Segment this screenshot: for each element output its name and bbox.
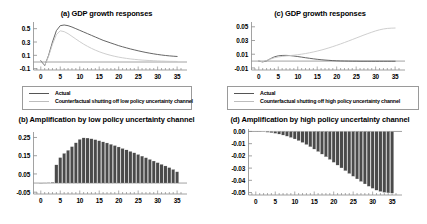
panel-b-xtick-label: 25: [130, 197, 146, 204]
panel-b-ytick-label: -0.05: [0, 189, 30, 196]
panel-c-xtick-label: 0: [251, 73, 267, 80]
legend-entry-actual: Actual: [228, 89, 418, 97]
panel-b-title: (b) Amplification by low policy uncertai…: [0, 115, 213, 124]
panel-b-plot: [33, 132, 181, 194]
panel-b-xtick-label: 15: [91, 197, 107, 204]
bar: [94, 140, 97, 183]
bar: [172, 169, 175, 183]
bar: [352, 131, 355, 176]
legend-entry-counterfactual: Counterfactual shutting off high policy …: [228, 97, 418, 105]
panel-d-title: (d) Amplification by high policy uncerta…: [213, 115, 427, 124]
bar: [148, 159, 151, 183]
bar: [105, 143, 108, 183]
panel-c-xtick-label: 25: [348, 73, 364, 80]
panel-a-xtick-label: 15: [91, 73, 107, 80]
panel-d-ytick-label: -0.04: [215, 177, 245, 184]
panel-d-xtick-label: 0: [248, 198, 264, 205]
panel-c-canvas: [251, 22, 407, 72]
bar: [70, 147, 73, 183]
panel-b-amplification-low: (b) Amplification by low policy uncertai…: [0, 112, 213, 224]
panel-d-ytick-label: -0.02: [215, 152, 245, 159]
panel-c-xtick-label: 10: [290, 73, 306, 80]
legend-line-actual: [29, 93, 49, 94]
panel-c-plot: [251, 22, 399, 70]
panel-b-ytick-label: 0.05: [0, 171, 30, 178]
bar: [355, 131, 358, 179]
bar: [109, 144, 112, 183]
panel-c-title: (c) GDP growth responses: [213, 9, 427, 18]
bar: [55, 165, 58, 183]
bar: [168, 168, 171, 184]
panel-d-ytick-label: -0.01: [215, 140, 245, 147]
bar: [152, 161, 155, 183]
bar: [367, 131, 370, 186]
panel-d-xtick-label: 5: [267, 198, 283, 205]
bar: [340, 131, 343, 168]
bar: [371, 131, 374, 188]
bar: [121, 148, 124, 183]
panel-d-xtick-label: 35: [384, 198, 400, 205]
legend-label-actual: Actual: [55, 90, 70, 96]
panel-a-title: (a) GDP growth responses: [0, 9, 213, 18]
bar: [332, 131, 335, 162]
bar: [140, 156, 143, 183]
bar: [390, 131, 393, 193]
panel-a-ytick-label: 0.3: [0, 39, 30, 46]
panel-a-legend: Actual Counterfactual shutting off low p…: [22, 86, 192, 110]
panel-d-xtick-label: 10: [287, 198, 303, 205]
panel-d-ytick-label: -0.05: [215, 189, 245, 196]
bar: [160, 164, 163, 183]
panel-a-gdp-growth-responses-low: (a) GDP growth responses Actual Counterf…: [0, 0, 213, 112]
panel-a-xtick-label: 10: [72, 73, 88, 80]
bar: [313, 131, 316, 149]
panel-a-ytick-label: 0.5: [0, 25, 30, 32]
panel-c-ytick-label: 0.01: [218, 51, 248, 58]
bar: [156, 163, 159, 183]
bar: [309, 131, 312, 146]
bar: [383, 131, 386, 192]
bar: [133, 153, 136, 183]
bar: [328, 131, 331, 159]
bar: [305, 131, 308, 144]
bar: [129, 151, 132, 183]
panel-b-canvas: [33, 132, 189, 196]
panel-a-series-1: [41, 31, 177, 66]
bar: [375, 131, 378, 190]
panel-a-plot: [33, 22, 181, 70]
legend-line-counterfactual: [29, 101, 49, 102]
panel-b-xtick-label: 30: [150, 197, 166, 204]
panel-a-ytick-label: -0.1: [0, 65, 30, 72]
panel-a-xtick-label: 20: [111, 73, 127, 80]
panel-c-ytick-label: -0.01: [218, 65, 248, 72]
bar: [117, 147, 120, 183]
bar: [78, 139, 81, 183]
legend-label-actual: Actual: [260, 90, 275, 96]
panel-c-xtick-label: 30: [368, 73, 384, 80]
bar: [98, 141, 101, 183]
bar: [316, 131, 319, 151]
panel-d-xtick-label: 30: [365, 198, 381, 205]
panel-c-xtick-label: 20: [329, 73, 345, 80]
panel-d-amplification-high: (d) Amplification by high policy uncerta…: [213, 112, 427, 224]
bar: [379, 131, 382, 191]
legend-line-counterfactual: [234, 101, 254, 102]
bar: [164, 166, 167, 183]
bar: [86, 138, 89, 183]
bar: [297, 131, 300, 140]
panel-a-xtick-label: 25: [130, 73, 146, 80]
panel-c-series-1: [259, 28, 395, 62]
panel-d-xtick-label: 25: [345, 198, 361, 205]
bar: [278, 131, 281, 134]
bar: [281, 131, 284, 135]
bar: [82, 138, 85, 183]
bar: [125, 150, 128, 183]
panel-c-ytick-label: 0.03: [218, 37, 248, 44]
panel-b-xtick-label: 35: [169, 197, 185, 204]
panel-d-ytick-label: 0.00: [215, 128, 245, 135]
panel-c-xtick-label: 35: [387, 73, 403, 80]
panel-b-xtick-label: 5: [52, 197, 68, 204]
legend-line-actual: [234, 93, 254, 94]
bar: [285, 131, 288, 136]
bar: [113, 145, 116, 183]
legend-entry-counterfactual: Counterfactual shutting off low policy u…: [23, 97, 191, 105]
